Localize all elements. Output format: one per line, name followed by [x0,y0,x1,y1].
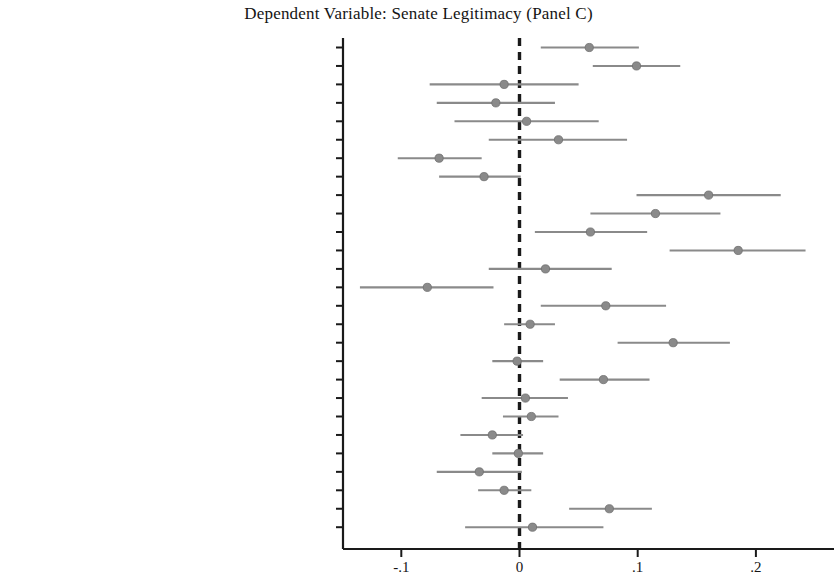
coefficient-plot-figure: Dependent Variable: Senate Legitimacy (P… [0,0,837,586]
x-axis-tick-label: -.1 [393,559,409,576]
x-axis-tick-label: .2 [750,559,761,576]
x-axis-tick-label-list: -.10.1.2 [0,0,837,586]
x-axis-tick-label: .1 [632,559,643,576]
x-axis-tick-label: 0 [516,559,524,576]
